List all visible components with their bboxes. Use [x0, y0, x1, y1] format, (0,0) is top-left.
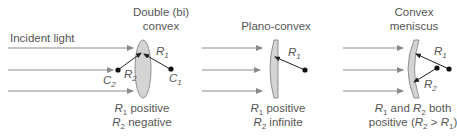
double-convex-title-line1: Double (bi)	[133, 6, 189, 18]
plano-convex-caption-line1: R1 positive	[251, 102, 306, 117]
incident-rays	[343, 48, 403, 91]
c2-label: C2	[103, 74, 116, 89]
center-c2-dot	[115, 67, 120, 72]
lens-diagram: Double (bi) convex Incident light R1 R2 …	[0, 0, 457, 140]
convex-meniscus-caption-line2: positive (R2 > R1)	[369, 116, 457, 131]
incident-rays	[202, 48, 262, 91]
plano-convex-title: Plano-convex	[241, 20, 311, 32]
r1-label: R1	[434, 45, 447, 60]
convex-meniscus-title-line2: meniscus	[390, 20, 439, 32]
biconvex-lens-shape	[135, 40, 151, 98]
center-dot	[302, 67, 307, 72]
plano-convex-lens-shape	[270, 40, 278, 98]
incident-light-label: Incident light	[10, 32, 75, 44]
center-c2-dot	[434, 65, 439, 70]
double-convex-caption-line2: R2 negative	[112, 116, 171, 131]
center-c1-dot	[446, 66, 451, 71]
r2-label: R2	[424, 78, 437, 93]
convex-meniscus-title-line1: Convex	[395, 6, 434, 18]
center-c1-dot	[168, 66, 173, 71]
double-convex-caption-line1: R1 positive	[115, 102, 170, 117]
convex-meniscus-panel: Convex meniscus R1 R2 R1 and R2 both pos…	[343, 6, 457, 131]
r1-label: R1	[288, 46, 301, 61]
plano-convex-caption-line2: R2 infinite	[253, 116, 302, 131]
c1-label: C1	[169, 72, 182, 87]
double-convex-panel: Double (bi) convex Incident light R1 R2 …	[8, 6, 189, 131]
convex-meniscus-caption-line1: R1 and R2 both	[375, 102, 452, 117]
double-convex-title-line2: convex	[143, 20, 180, 32]
r1-label: R1	[156, 45, 169, 60]
meniscus-lens-shape	[408, 40, 419, 98]
plano-convex-panel: Plano-convex R1 R1 positive R2 infinite	[202, 20, 311, 131]
